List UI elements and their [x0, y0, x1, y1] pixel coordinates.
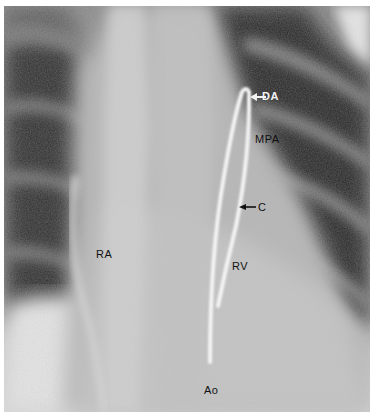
- label-ra: RA: [96, 249, 112, 260]
- radiograph: DA MPA C RA RV Ao: [4, 6, 370, 412]
- label-ao: Ao: [204, 385, 218, 396]
- label-rv: RV: [232, 261, 248, 272]
- label-c: C: [258, 202, 266, 213]
- xray-image: [4, 6, 370, 412]
- label-mpa: MPA: [255, 134, 280, 145]
- label-da: DA: [262, 91, 279, 102]
